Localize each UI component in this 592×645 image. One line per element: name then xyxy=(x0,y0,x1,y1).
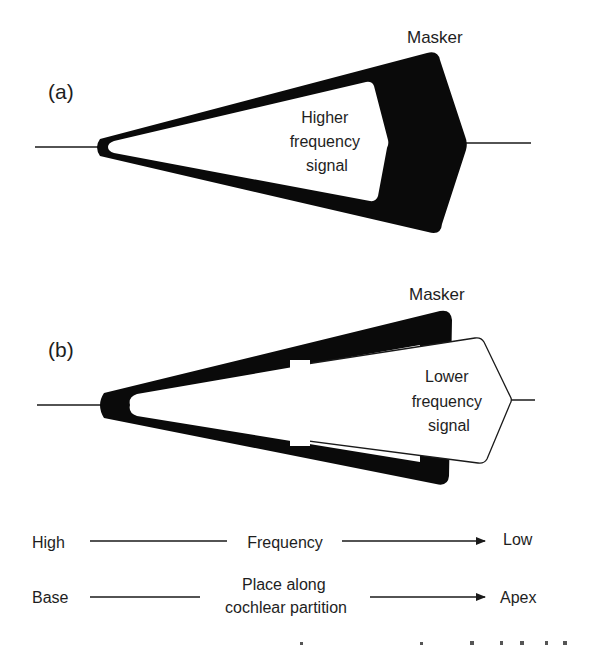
panel-b-label: (b) xyxy=(48,338,74,361)
frequency-low-label: Low xyxy=(503,531,533,548)
cropped-caption-fragment xyxy=(300,641,567,645)
panel-b-signal-mask xyxy=(290,360,310,446)
masking-diagram: (a) Masker Higher frequency signal (b) M… xyxy=(0,0,592,645)
panel-b: (b) Masker Lower frequency signal xyxy=(37,285,535,485)
place-apex-label: Apex xyxy=(500,589,536,606)
frequency-label: Frequency xyxy=(247,534,323,551)
place-label: Place along cochlear partition xyxy=(225,576,347,616)
panel-b-masker-label: Masker xyxy=(409,285,465,304)
panel-a-masker-label: Masker xyxy=(407,28,463,47)
frequency-axis: High Frequency Low xyxy=(32,531,533,551)
panel-a: (a) Masker Higher frequency signal xyxy=(35,28,531,233)
frequency-high-label: High xyxy=(32,534,65,551)
panel-a-label: (a) xyxy=(48,80,74,103)
place-base-label: Base xyxy=(32,589,69,606)
place-axis: Base Place along cochlear partition Apex xyxy=(32,576,536,616)
